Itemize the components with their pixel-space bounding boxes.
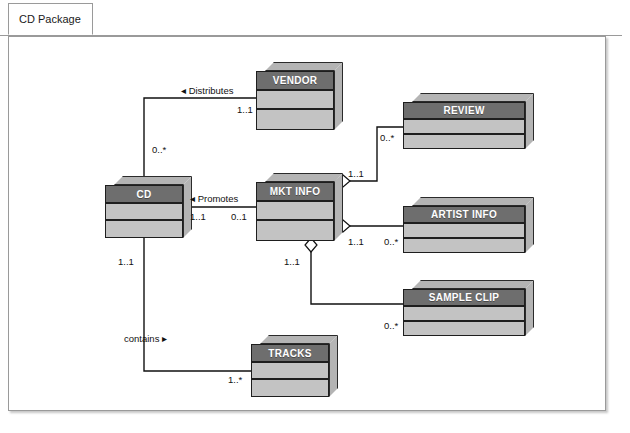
class-artist-info-name: ARTIST INFO xyxy=(403,206,525,223)
multiplicity-mktinfo-promotes: 0..1 xyxy=(231,211,247,222)
class-cd-depth-right xyxy=(183,176,192,238)
class-sample-clip-depth-top xyxy=(412,280,534,289)
multiplicity-mktinfo-artistinfo: 1..1 xyxy=(348,236,364,247)
class-vendor-name-label: VENDOR xyxy=(273,75,318,86)
promotes-arrow-icon: ◂ xyxy=(190,193,195,204)
class-vendor-name: VENDOR xyxy=(256,71,334,90)
class-artist-info[interactable]: ARTIST INFO xyxy=(403,197,525,253)
multiplicity-mktinfo-sampleclip: 1..1 xyxy=(284,256,300,267)
class-mkt-info-attributes xyxy=(256,201,334,220)
class-tracks-depth-right xyxy=(329,335,338,397)
multiplicity-artistinfo: 0..* xyxy=(384,236,398,247)
class-cd-operations xyxy=(105,220,183,238)
class-cd-name-label: CD xyxy=(136,189,151,200)
distributes-label-text: Distributes xyxy=(189,85,234,96)
contains-label-text: contains xyxy=(124,333,159,344)
class-tracks-name: TRACKS xyxy=(251,344,329,362)
multiplicity-tracks: 1..* xyxy=(228,374,242,385)
class-tracks-name-label: TRACKS xyxy=(268,348,311,359)
class-tracks-operations xyxy=(251,379,329,397)
class-vendor-depth-right xyxy=(334,62,343,130)
class-sample-clip-name: SAMPLE CLIP xyxy=(403,289,525,306)
class-mkt-info-name: MKT INFO xyxy=(256,182,334,201)
class-cd-attributes xyxy=(105,203,183,220)
class-artist-info-depth-right xyxy=(525,197,534,253)
class-review-depth-right xyxy=(525,93,534,149)
class-mkt-info-depth-top xyxy=(265,173,343,182)
class-artist-info-depth-top xyxy=(412,197,534,206)
class-mkt-info-operations xyxy=(256,220,334,241)
class-tracks-depth-top xyxy=(260,335,338,344)
class-sample-clip-operations xyxy=(403,321,525,336)
contains-arrow-icon: ▸ xyxy=(162,333,167,344)
class-vendor-operations xyxy=(256,109,334,130)
class-artist-info-name-label: ARTIST INFO xyxy=(431,209,497,220)
class-mkt-info-depth-right xyxy=(334,173,343,241)
class-review[interactable]: REVIEW xyxy=(403,93,525,149)
class-mkt-info[interactable]: MKT INFO xyxy=(256,173,334,241)
class-tracks-attributes xyxy=(251,362,329,379)
multiplicity-cd-tracks: 1..1 xyxy=(118,256,134,267)
association-label-promotes: ◂ Promotes xyxy=(190,193,238,204)
class-tracks[interactable]: TRACKS xyxy=(251,335,329,397)
class-review-operations xyxy=(403,134,525,149)
class-mkt-info-name-label: MKT INFO xyxy=(270,186,321,197)
class-artist-info-attributes xyxy=(403,223,525,238)
association-label-contains: contains ▸ xyxy=(124,333,167,344)
multiplicity-mktinfo-review: 1..1 xyxy=(348,168,364,179)
multiplicity-cd-distributes: 0..* xyxy=(152,144,166,155)
class-review-attributes xyxy=(403,119,525,134)
class-cd-name: CD xyxy=(105,185,183,203)
multiplicity-vendor-distributes: 1..1 xyxy=(237,104,253,115)
multiplicity-cd-promotes: 1..1 xyxy=(190,211,206,222)
distributes-arrow-icon: ◂ xyxy=(181,85,186,96)
class-artist-info-operations xyxy=(403,238,525,253)
promotes-label-text: Promotes xyxy=(198,193,239,204)
class-sample-clip[interactable]: SAMPLE CLIP xyxy=(403,280,525,336)
tab-strip: CD Package xyxy=(0,0,630,36)
class-review-name-label: REVIEW xyxy=(443,105,484,116)
class-vendor-depth-top xyxy=(265,62,343,71)
multiplicity-sampleclip: 0..* xyxy=(384,320,398,331)
tab-cd-package[interactable]: CD Package xyxy=(8,3,93,35)
class-sample-clip-depth-right xyxy=(525,280,534,336)
class-review-depth-top xyxy=(412,93,534,102)
multiplicity-review: 0..* xyxy=(380,132,394,143)
class-cd[interactable]: CD xyxy=(105,176,183,238)
tab-label: CD Package xyxy=(19,13,81,25)
class-sample-clip-name-label: SAMPLE CLIP xyxy=(429,292,500,303)
class-sample-clip-attributes xyxy=(403,306,525,321)
class-vendor[interactable]: VENDOR xyxy=(256,62,334,130)
class-cd-depth-top xyxy=(114,176,192,185)
class-review-name: REVIEW xyxy=(403,102,525,119)
class-vendor-attributes xyxy=(256,90,334,109)
association-label-distributes: ◂ Distributes xyxy=(181,85,234,96)
